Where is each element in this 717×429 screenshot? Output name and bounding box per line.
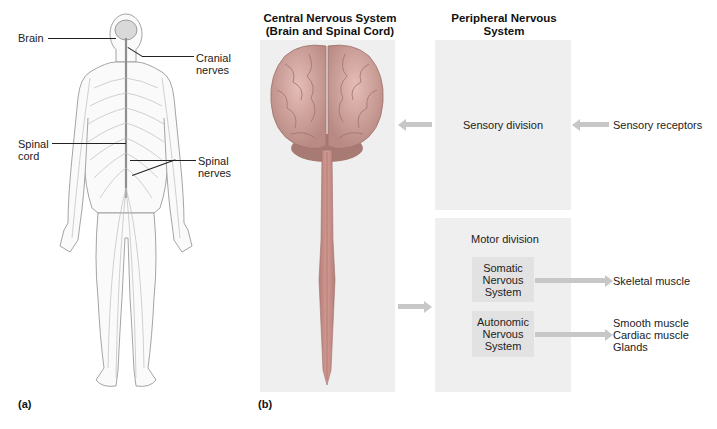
leader-line-spinal-cord [52, 143, 126, 144]
arrow-sensory-to-cns [405, 122, 432, 127]
cns-title: Central Nervous System (Brain and Spinal… [255, 12, 405, 38]
arrow-receptors-to-sensory [579, 122, 609, 127]
leader-line-brain [48, 38, 116, 39]
autonomic-targets-list: Smooth muscle Cardiac muscle Glands [613, 317, 689, 353]
arrow-cns-to-motor-head [424, 301, 432, 313]
label-brain: Brain [18, 32, 44, 44]
arrow-autonomic-to-targets [535, 332, 605, 337]
human-body-illustration [50, 8, 210, 393]
leader-line-spinal-nerves-1 [130, 160, 196, 161]
arrow-somatic-to-skeletal-head [605, 275, 613, 287]
leader-line-cranial [142, 56, 194, 57]
sensory-receptors-label: Sensory receptors [613, 119, 702, 131]
arrow-somatic-to-skeletal [535, 278, 605, 283]
panel-label-a: (a) [18, 398, 31, 410]
somatic-nervous-system-box: Somatic Nervous System [472, 257, 534, 302]
skeletal-muscle-label: Skeletal muscle [613, 275, 690, 287]
arrow-autonomic-to-targets-head [605, 329, 613, 341]
target-cardiac-muscle: Cardiac muscle [613, 329, 689, 341]
brain-and-spinal-cord-illustration [265, 40, 390, 390]
label-spinal-nerves: Spinal nerves [198, 155, 231, 179]
sensory-division-label: Sensory division [435, 119, 571, 131]
label-cranial-nerves: Cranial nerves [196, 52, 231, 76]
arrow-cns-to-motor [398, 304, 424, 309]
autonomic-nervous-system-box: Autonomic Nervous System [472, 311, 534, 357]
label-spinal-cord: Spinal cord [18, 138, 49, 162]
target-smooth-muscle: Smooth muscle [613, 317, 689, 329]
panel-label-b: (b) [258, 398, 272, 410]
motor-division-label: Motor division [471, 233, 539, 245]
target-glands: Glands [613, 341, 689, 353]
